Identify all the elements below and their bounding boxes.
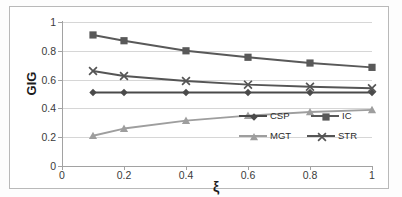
- legend-marker-x-icon: [317, 131, 327, 147]
- data-point-square: [244, 54, 251, 61]
- series-str: [89, 67, 376, 92]
- chart-figure: 00.20.40.60.81 00.20.40.60.81 GIG ξ CSPI…: [0, 0, 402, 197]
- data-point-diamond: [89, 89, 96, 96]
- data-point-square: [89, 31, 96, 38]
- series-ic: [89, 31, 375, 71]
- legend-label: CSP: [270, 108, 290, 124]
- legend-marker-diamond-icon: [249, 111, 259, 127]
- data-point-square: [322, 113, 329, 120]
- series-line: [93, 71, 372, 88]
- data-point-square: [306, 59, 313, 66]
- legend-label: MGT: [270, 128, 291, 144]
- data-point-triangle: [250, 133, 258, 140]
- legend-marker-triangle-icon: [249, 131, 259, 147]
- data-point-x: [318, 133, 326, 141]
- data-point-diamond: [244, 89, 251, 96]
- legend-label: STR: [338, 128, 357, 144]
- series-layer: [0, 0, 402, 197]
- legend-marker-square-icon: [321, 111, 331, 127]
- data-point-diamond: [250, 113, 257, 120]
- data-point-square: [368, 64, 375, 71]
- series-csp: [89, 89, 375, 96]
- data-point-square: [120, 37, 127, 44]
- series-line: [93, 35, 372, 67]
- data-point-diamond: [120, 89, 127, 96]
- data-point-square: [182, 47, 189, 54]
- data-point-diamond: [182, 89, 189, 96]
- legend-label: IC: [342, 108, 352, 124]
- legend: CSPICMGTSTR: [239, 108, 375, 148]
